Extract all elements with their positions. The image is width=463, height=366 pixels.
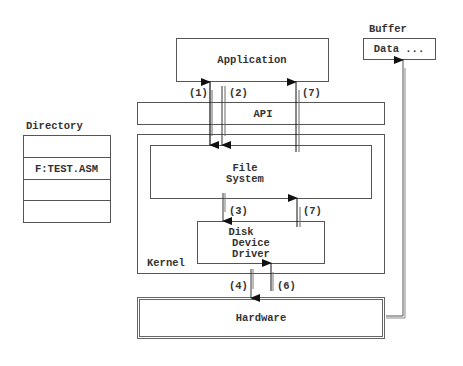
disk-driver-box: Disk Device Driver (198, 222, 325, 264)
buffer: Buffer Data ... (364, 23, 436, 60)
arrow-step-1: (1) (189, 82, 212, 145)
application-box: Application (177, 39, 329, 82)
io-flow-diagram: Application API Kernel File System Disk … (0, 0, 463, 366)
directory-table: Directory F:TEST.ASM (24, 120, 111, 223)
step-2-label: (2) (229, 87, 248, 99)
hardware-to-buffer-arrow (386, 60, 405, 318)
driver-label-line3: Driver (232, 248, 270, 260)
kernel-label: Kernel (147, 257, 185, 269)
hardware-label: Hardware (236, 312, 286, 324)
directory-row-file: F:TEST.ASM (35, 163, 98, 175)
buffer-title: Buffer (369, 23, 407, 35)
api-label: API (254, 108, 273, 120)
step-7-top-label: (7) (302, 87, 321, 99)
step-4-label: (4) (229, 280, 248, 292)
step-6-label: (6) (277, 280, 296, 292)
api-layer: API (138, 103, 385, 125)
arrow-step-2: (2) (222, 86, 248, 145)
buffer-content: Data ... (374, 43, 424, 55)
arrow-step-7-top: (7) (296, 82, 321, 152)
file-system-box: File System (151, 146, 372, 199)
application-label: Application (217, 54, 286, 66)
file-system-label-line2: System (226, 173, 264, 185)
step-3-label: (3) (229, 205, 248, 217)
arrow-step-6: (6) (271, 263, 296, 292)
arrow-step-3: (3) (223, 193, 248, 221)
directory-title: Directory (26, 120, 83, 132)
step-1-label: (1) (189, 87, 208, 99)
arrow-step-7-mid: (7) (297, 198, 322, 227)
hardware-box: Hardware (138, 298, 385, 339)
step-7-mid-label: (7) (303, 205, 322, 217)
